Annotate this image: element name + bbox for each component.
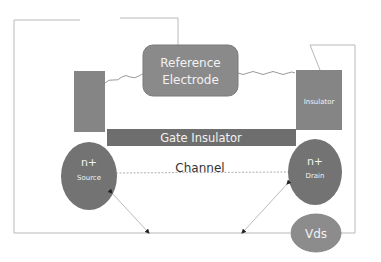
drain-contact-arrow	[243, 183, 288, 232]
gate-insulator: Gate Insulator	[107, 129, 296, 146]
source-label: Source	[77, 174, 101, 182]
left-insulator-block	[74, 71, 105, 132]
drain-region: n+ Drain	[288, 139, 342, 205]
reference-electrode: Reference Electrode	[143, 45, 238, 96]
isfet-diagram: Reference Electrode Insulator Gate Insul…	[0, 0, 381, 262]
electrolyte-wave-right	[238, 72, 295, 75]
drain-doping-label: n+	[307, 155, 323, 168]
drain-label: Drain	[306, 172, 325, 180]
electrolyte-wave-left	[105, 74, 143, 83]
source-doping-label: n+	[81, 156, 97, 169]
reference-electrode-label-2: Electrode	[162, 73, 219, 87]
right-insulator-block: Insulator	[296, 70, 342, 130]
right-insulator-label: Insulator	[304, 98, 335, 106]
channel-label: Channel	[175, 161, 224, 175]
wire-ref-top	[120, 18, 178, 45]
source-region: n+ Source	[61, 142, 117, 210]
vds-source: Vds	[291, 214, 341, 252]
reference-electrode-label-1: Reference	[160, 56, 220, 70]
gate-insulator-label: Gate Insulator	[160, 131, 242, 145]
source-contact-arrow	[111, 192, 148, 232]
vds-label: Vds	[305, 227, 327, 241]
